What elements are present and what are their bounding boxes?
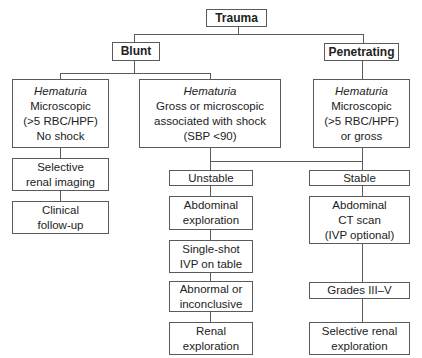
connector-micro-to-imaging [60,147,61,158]
node-single-shot-ivp: Single-shot IVP on table [169,240,253,273]
node-abdominal-ct: Abdominal CT scan (IVP optional) [309,196,410,244]
connector-trauma-split [134,34,364,35]
node-line: Single-shot [182,242,240,257]
node-penetrating: Penetrating [324,43,399,61]
connector-trauma-down [238,26,239,34]
connector-grades-to-selective [362,298,363,322]
node-line: exploration [331,339,387,354]
node-blunt-shock: Hematuria Gross or microscopic associate… [139,79,281,148]
node-line: Selective [37,160,84,175]
node-line: or gross [341,129,383,144]
connector-abnormal-to-renal [210,311,211,322]
node-blunt-microscopic: Hematuria Microscopic (>5 RBC/HPF) No sh… [12,79,109,148]
node-title: Hematuria [183,84,236,99]
connector-pen-down [362,147,363,170]
connector-blunt-split [60,73,211,74]
node-line: follow-up [37,218,83,233]
node-line: Unstable [188,171,233,186]
node-line: Abdominal [184,198,238,213]
node-line: exploration [183,339,239,354]
node-line: Gross or microscopic [156,99,264,114]
node-line: Abdominal [332,198,386,213]
connector-stable-down [362,185,363,196]
connector-merge [210,161,363,162]
node-line: renal imaging [26,175,95,190]
connector-ct-to-grades [362,243,363,282]
node-selective-renal-imaging: Selective renal imaging [12,158,109,191]
node-line: Abnormal or [180,282,243,297]
connector-blunt-down [134,60,135,73]
node-line: associated with shock [154,114,266,129]
connector-to-penetrating [363,34,364,43]
node-line: Grades III–V [327,283,392,298]
node-line: Renal [196,324,226,339]
node-line: Stable [343,171,376,186]
node-trauma-label: Trauma [215,11,258,26]
connector-single-to-abnormal [210,272,211,281]
node-line: Selective renal [322,324,397,339]
node-line: inconclusive [180,297,243,312]
node-selective-renal-exploration: Selective renal exploration [309,322,410,355]
node-stable: Stable [309,170,410,186]
node-clinical-followup: Clinical follow-up [12,201,109,234]
node-line: CT scan [338,213,381,228]
connector-to-blunt [134,34,135,42]
node-penetrating-label: Penetrating [328,45,394,60]
node-line: (SBP <90) [183,129,236,144]
node-line: (IVP optional) [325,228,394,243]
node-title: Hematuria [34,84,87,99]
node-line: exploration [183,213,239,228]
node-line: (>5 RBC/HPF) [23,114,97,129]
node-grades: Grades III–V [309,282,410,299]
connector-shock-down [210,147,211,170]
node-trauma: Trauma [206,9,267,27]
node-blunt: Blunt [112,42,160,61]
connector-abd-to-single [210,229,211,240]
connector-to-pen-hematuria [362,60,363,80]
node-line: No shock [37,129,85,144]
node-unstable: Unstable [169,170,253,186]
connector-imaging-to-followup [60,190,61,201]
node-line: IVP on table [180,257,242,272]
node-blunt-label: Blunt [121,44,152,59]
node-line: (>5 RBC/HPF) [324,114,398,129]
node-line: Microscopic [30,99,91,114]
node-title: Hematuria [335,84,388,99]
node-line: Clinical [42,203,79,218]
node-penetrating-hematuria: Hematuria Microscopic (>5 RBC/HPF) or gr… [313,79,410,148]
node-renal-exploration: Renal exploration [169,322,253,355]
node-abdominal-exploration: Abdominal exploration [169,196,253,230]
connector-unstable-down [210,185,211,196]
node-abnormal-inconclusive: Abnormal or inconclusive [169,281,253,312]
node-line: Microscopic [331,99,392,114]
